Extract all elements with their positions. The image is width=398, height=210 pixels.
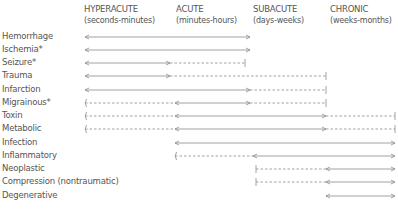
timeline-row — [85, 48, 250, 52]
timeline-row — [326, 194, 395, 198]
timeline-row — [175, 152, 395, 160]
timeline-row — [85, 72, 326, 80]
timeline-row — [256, 178, 395, 186]
timeline-row — [85, 86, 326, 94]
timeline-row — [85, 99, 326, 107]
timeline-row — [175, 141, 395, 145]
timeline-row — [256, 165, 395, 173]
timeline-row — [85, 59, 245, 67]
timeline-row — [85, 35, 250, 39]
timeline-row — [85, 125, 395, 133]
timeline-row — [85, 112, 395, 120]
timeline-bars — [0, 0, 398, 210]
